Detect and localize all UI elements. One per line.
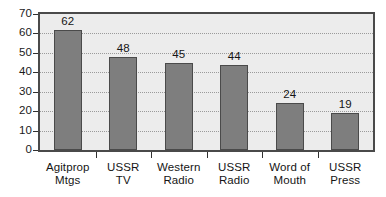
x-tick-mark [262,152,263,158]
y-tick-label: 20 [6,105,32,117]
plot-inner [40,14,373,150]
plot-area [38,12,375,152]
y-tick-mark [33,53,38,54]
gridline [40,131,373,132]
y-tick-mark [33,150,38,151]
y-tick-label: 30 [6,86,32,98]
y-tick-mark [33,33,38,34]
x-category-label-line1: Word of [269,161,310,173]
gridline [40,53,373,54]
bar[interactable] [331,113,359,150]
y-tick-mark [33,72,38,73]
bar[interactable] [165,63,193,150]
bar-value-label: 19 [325,99,365,111]
bar[interactable] [220,65,248,150]
y-tick-mark [33,14,38,15]
bar-value-label: 24 [270,89,310,101]
y-tick-mark [33,111,38,112]
x-tick-mark [151,152,152,158]
x-category-label-line1: USSR [107,161,139,173]
y-tick-label: 40 [6,66,32,78]
x-category-label-line1: USSR [218,161,250,173]
x-category-label-line1: USSR [329,161,361,173]
x-tick-mark [96,152,97,158]
y-tick-label: 10 [6,125,32,137]
gridline [40,111,373,112]
gridline [40,72,373,73]
bar[interactable] [54,30,82,150]
bar[interactable] [276,103,304,150]
y-tick-mark [33,92,38,93]
gridline [40,92,373,93]
gridline [40,33,373,34]
y-tick-label: 60 [6,27,32,39]
bar-chart: 010203040506070 AgitpropMtgsUSSRTVWester… [0,0,386,197]
bar-value-label: 44 [214,51,254,63]
y-tick-mark [33,131,38,132]
bar-value-label: 45 [159,49,199,61]
y-tick-label: 50 [6,47,32,59]
bar-value-label: 48 [103,43,143,55]
y-tick-label: 0 [6,144,32,156]
x-tick-mark [207,152,208,158]
bar-value-label: 62 [48,16,88,28]
x-tick-mark [318,152,319,158]
x-category-label: USSRPress [305,161,385,187]
y-tick-label: 70 [6,8,32,20]
x-category-label-line2: Press [305,174,385,187]
bar[interactable] [109,57,137,150]
